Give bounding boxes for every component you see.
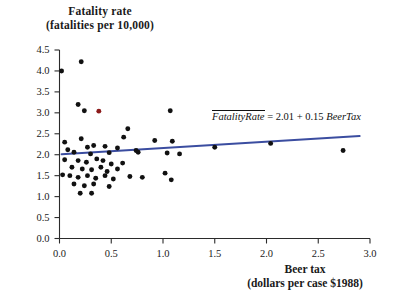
scatter-point [67, 173, 72, 178]
x-tick-label: 1.0 [148, 248, 178, 259]
y-tick-label: 0.5 [24, 212, 50, 223]
scatter-point [165, 151, 170, 156]
scatter-point [125, 126, 130, 131]
scatter-point [88, 151, 93, 156]
scatter-point [120, 161, 125, 166]
y-tick-label: 4.5 [24, 44, 50, 55]
y-tick-label: 4.0 [24, 65, 50, 76]
scatter-point [85, 173, 90, 178]
scatter-point [115, 167, 120, 172]
scatter-point [93, 176, 98, 181]
scatter-point [60, 172, 65, 177]
scatter-point [212, 145, 217, 150]
scatter-point [76, 158, 81, 163]
scatter-point [152, 138, 157, 143]
equation-intercept: 2.01 [276, 111, 294, 122]
y-axis-label-line2: (fatalities per 10,000) [0, 18, 200, 32]
y-tick-label: 1.0 [24, 191, 50, 202]
scatter-point [82, 108, 87, 113]
x-axis-label: Beer tax (dollars per case $1988) [215, 262, 395, 290]
equation-regressor: BeerTax [326, 111, 361, 122]
scatter-point [127, 174, 132, 179]
x-tick-label: 1.5 [200, 248, 230, 259]
scatter-point [105, 169, 110, 174]
scatter-points-group [59, 59, 345, 195]
scatter-point [170, 139, 175, 144]
scatter-point [107, 150, 112, 155]
x-axis-label-line1: Beer tax [215, 262, 395, 276]
scatter-point [85, 145, 90, 150]
regression-equation-annotation: FatalityRate = 2.01 + 0.15 BeerTax [212, 110, 361, 122]
y-tick-label: 3.5 [24, 86, 50, 97]
scatter-point [89, 191, 94, 196]
scatter-point [101, 158, 106, 163]
scatter-point [62, 140, 67, 145]
scatter-point [72, 150, 77, 155]
scatter-point [76, 102, 81, 107]
scatter-point [94, 156, 99, 161]
x-tick-label: 2.0 [252, 248, 282, 259]
scatter-point [140, 175, 145, 180]
y-axis-label: Fatality rate (fatalities per 10,000) [0, 4, 200, 32]
scatter-point [72, 182, 77, 187]
scatter-point [82, 183, 87, 188]
scatter-point [168, 108, 173, 113]
scatter-point [136, 150, 141, 155]
scatter-point [96, 109, 101, 114]
x-axis-label-line2: (dollars per case $1988) [215, 276, 395, 290]
scatter-point [177, 151, 182, 156]
y-tick-label: 0.0 [24, 233, 50, 244]
scatter-point [268, 141, 273, 146]
scatter-point [115, 146, 120, 151]
y-tick-label: 2.0 [24, 149, 50, 160]
scatter-point [69, 165, 74, 170]
scatter-point [109, 161, 114, 166]
scatter-point [169, 177, 174, 182]
scatter-point [84, 160, 89, 165]
scatter-point [80, 167, 85, 172]
scatter-point [78, 191, 83, 196]
scatter-point [103, 144, 108, 149]
scatter-point [62, 157, 67, 162]
x-tick-label: 0.0 [45, 248, 75, 259]
equation-slope: 0.15 [305, 111, 323, 122]
y-tick-label: 1.5 [24, 170, 50, 181]
scatter-point [65, 147, 70, 152]
scatter-point [103, 173, 108, 178]
scatter-point [91, 182, 96, 187]
scatter-point [79, 59, 84, 64]
scatter-point [89, 167, 94, 172]
scatter-point [121, 135, 126, 140]
scatter-point [98, 165, 103, 170]
fitted-value-symbol: FatalityRate [212, 110, 265, 122]
scatter-point [163, 171, 168, 176]
scatter-point [59, 68, 64, 73]
scatter-point [341, 148, 346, 153]
scatter-point [111, 177, 116, 182]
x-tick-label: 3.0 [355, 248, 385, 259]
scatter-point [76, 175, 81, 180]
y-axis-label-line1: Fatality rate [0, 4, 200, 18]
x-tick-label: 2.5 [303, 248, 333, 259]
scatter-point [79, 136, 84, 141]
y-tick-label: 2.5 [24, 128, 50, 139]
scatter-point [107, 184, 112, 189]
scatter-point [91, 143, 96, 148]
x-tick-label: 0.5 [96, 248, 126, 259]
y-tick-label: 3.0 [24, 107, 50, 118]
